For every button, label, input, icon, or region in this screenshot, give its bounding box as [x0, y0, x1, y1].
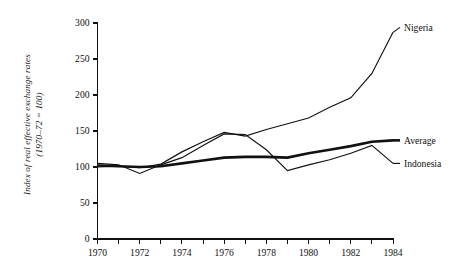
y-tick-label: 250 [75, 53, 90, 64]
x-tick-label: 1982 [341, 247, 360, 258]
y-tick-label: 300 [75, 17, 90, 28]
x-tick-label: 1972 [130, 247, 149, 258]
y-tick-label: 200 [75, 89, 90, 100]
x-tick-group: 19701972197419761978198019821984 [88, 239, 403, 258]
x-tick-label: 1984 [383, 247, 402, 258]
y-tick-label: 100 [75, 161, 90, 172]
x-tick-label: 1970 [88, 247, 107, 258]
series-label-group: NigeriaAverageIndonesia [404, 22, 442, 169]
y-tick-group: 050100150200250300 [75, 17, 97, 244]
axis-lines [98, 23, 395, 239]
chart-figure: Index of real effective exchange rates (… [0, 0, 458, 279]
y-tick-label: 0 [85, 233, 90, 244]
series-label-average: Average [404, 135, 436, 146]
x-tick-label: 1978 [257, 247, 276, 258]
series-label-indonesia: Indonesia [404, 158, 442, 169]
x-tick-label: 1980 [299, 247, 318, 258]
series-label-nigeria: Nigeria [404, 22, 434, 33]
y-tick-label: 50 [80, 197, 90, 208]
y-tick-label: 150 [75, 125, 90, 136]
series-leader-nigeria [393, 27, 400, 32]
data-series-group [98, 27, 401, 173]
x-tick-label: 1976 [215, 247, 234, 258]
x-tick-label: 1974 [172, 247, 191, 258]
line-chart-plot: 050100150200250300 197019721974197619781… [0, 0, 458, 279]
